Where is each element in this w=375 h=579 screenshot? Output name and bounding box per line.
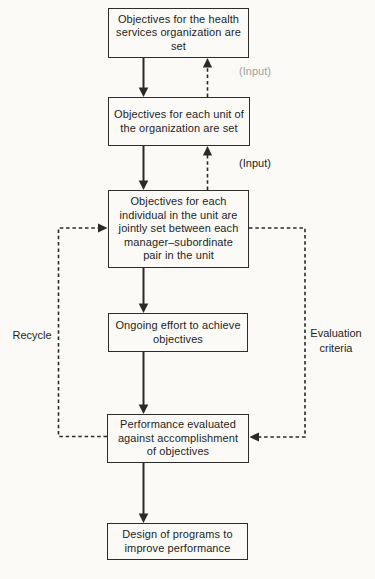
box-organization-objectives-text: Objectives for the health services organ… (114, 13, 243, 54)
label-evaluation-criteria: Evaluation criteria (304, 326, 368, 356)
dashed-arrow-input-unit-to-org (203, 58, 212, 97)
box-performance-evaluated: Performance evaluated against accomplish… (107, 414, 249, 463)
label-input-top: (Input) (231, 64, 279, 79)
box-performance-evaluated-text: Performance evaluated against accomplish… (113, 418, 243, 459)
box-organization-objectives: Objectives for the health services organ… (108, 8, 249, 58)
box-individual-objectives: Objectives for each individual in the un… (108, 190, 249, 268)
box-individual-objectives-text: Objectives for each individual in the un… (114, 195, 243, 263)
arrow-individual-to-effort (139, 268, 149, 313)
arrow-unit-to-individual (139, 146, 149, 190)
box-design-programs: Design of programs to improve performanc… (107, 523, 248, 560)
dashed-path-evaluation-criteria (249, 228, 305, 442)
box-ongoing-effort-text: Ongoing effort to achieve objectives (114, 319, 242, 346)
connector-layer (0, 0, 375, 579)
flowchart-canvas: Objectives for the health services organ… (0, 0, 375, 579)
dashed-path-recycle (59, 223, 108, 436)
label-recycle: Recycle (8, 328, 56, 343)
arrow-performance-to-design (139, 463, 149, 523)
box-ongoing-effort: Ongoing effort to achieve objectives (108, 313, 248, 352)
box-unit-objectives: Objectives for each unit of the organiza… (108, 97, 250, 146)
dashed-arrow-input-individual-to-unit (203, 146, 212, 190)
label-input-mid: (Input) (231, 156, 279, 171)
arrow-org-to-unit (139, 58, 149, 97)
box-design-programs-text: Design of programs to improve performanc… (113, 528, 242, 555)
arrow-effort-to-performance (139, 352, 149, 414)
box-unit-objectives-text: Objectives for each unit of the organiza… (114, 108, 244, 135)
